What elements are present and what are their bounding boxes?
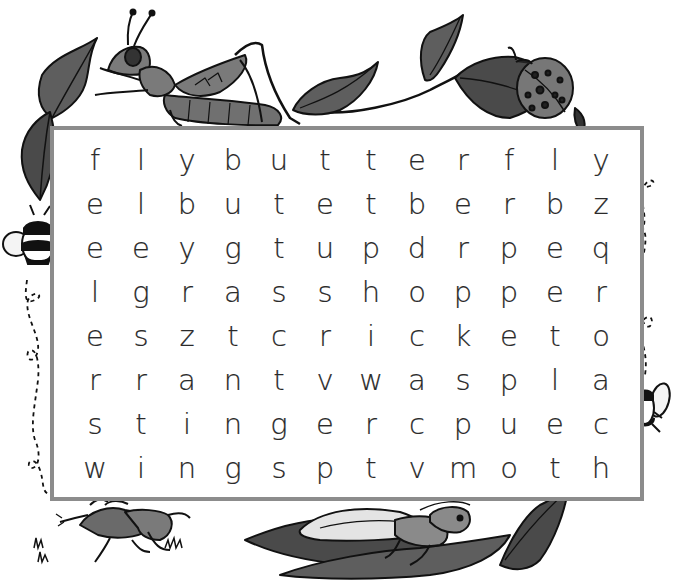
grid-cell[interactable]: v: [394, 446, 440, 490]
grid-cell[interactable]: l: [118, 138, 164, 182]
grid-cell[interactable]: r: [118, 358, 164, 402]
grid-cell[interactable]: l: [118, 182, 164, 226]
grid-cell[interactable]: t: [210, 314, 256, 358]
grid-cell[interactable]: e: [394, 138, 440, 182]
grid-cell[interactable]: z: [578, 182, 624, 226]
grid-cell[interactable]: e: [532, 226, 578, 270]
grid-cell[interactable]: t: [256, 226, 302, 270]
grid-cell[interactable]: p: [348, 226, 394, 270]
grid-cell[interactable]: w: [72, 446, 118, 490]
grid-cell[interactable]: t: [532, 446, 578, 490]
grid-cell[interactable]: b: [532, 182, 578, 226]
grid-cell[interactable]: g: [118, 270, 164, 314]
grid-cell[interactable]: f: [486, 138, 532, 182]
grid-cell[interactable]: q: [578, 226, 624, 270]
grid-cell[interactable]: a: [164, 358, 210, 402]
grid-cell[interactable]: c: [394, 314, 440, 358]
grid-cell[interactable]: c: [394, 402, 440, 446]
grid-cell[interactable]: g: [210, 226, 256, 270]
grid-cell[interactable]: t: [256, 182, 302, 226]
grid-cell[interactable]: p: [302, 446, 348, 490]
grid-cell[interactable]: e: [532, 402, 578, 446]
grid-cell[interactable]: n: [210, 358, 256, 402]
grid-cell[interactable]: e: [118, 226, 164, 270]
grid-cell[interactable]: y: [164, 138, 210, 182]
grid-cell[interactable]: u: [302, 226, 348, 270]
grid-cell[interactable]: a: [394, 358, 440, 402]
cricket-on-leaf-icon: [245, 490, 568, 579]
grid-cell[interactable]: v: [302, 358, 348, 402]
grid-cell[interactable]: r: [348, 402, 394, 446]
grid-cell[interactable]: e: [72, 314, 118, 358]
grid-cell[interactable]: s: [302, 270, 348, 314]
grid-cell[interactable]: y: [164, 226, 210, 270]
grid-cell[interactable]: w: [348, 358, 394, 402]
grid-cell[interactable]: e: [532, 270, 578, 314]
grid-cell[interactable]: o: [394, 270, 440, 314]
grid-cell[interactable]: o: [578, 314, 624, 358]
grid-cell[interactable]: z: [164, 314, 210, 358]
grid-cell[interactable]: d: [394, 226, 440, 270]
grid-cell[interactable]: r: [72, 358, 118, 402]
grid-cell[interactable]: i: [348, 314, 394, 358]
grid-cell[interactable]: f: [72, 138, 118, 182]
grid-cell[interactable]: r: [440, 226, 486, 270]
grid-cell[interactable]: r: [302, 314, 348, 358]
grid-cell[interactable]: k: [440, 314, 486, 358]
grid-cell[interactable]: l: [532, 358, 578, 402]
grid-cell[interactable]: r: [578, 270, 624, 314]
grid-cell[interactable]: r: [440, 138, 486, 182]
grid-cell[interactable]: m: [440, 446, 486, 490]
grid-cell[interactable]: e: [302, 182, 348, 226]
grid-cell[interactable]: b: [210, 138, 256, 182]
grid-cell[interactable]: p: [486, 270, 532, 314]
grid-cell[interactable]: i: [164, 402, 210, 446]
grid-cell[interactable]: n: [164, 446, 210, 490]
grid-cell[interactable]: e: [440, 182, 486, 226]
grid-cell[interactable]: p: [440, 270, 486, 314]
grid-cell[interactable]: g: [210, 446, 256, 490]
grid-cell[interactable]: t: [302, 138, 348, 182]
grid-cell[interactable]: y: [578, 138, 624, 182]
grid-cell[interactable]: b: [164, 182, 210, 226]
grid-cell[interactable]: a: [210, 270, 256, 314]
grid-cell[interactable]: s: [256, 270, 302, 314]
grid-cell[interactable]: e: [302, 402, 348, 446]
grid-cell[interactable]: h: [348, 270, 394, 314]
grid-cell[interactable]: a: [578, 358, 624, 402]
grid-cell[interactable]: b: [394, 182, 440, 226]
grid-cell[interactable]: c: [256, 314, 302, 358]
grid-cell[interactable]: t: [532, 314, 578, 358]
grid-cell[interactable]: s: [118, 314, 164, 358]
grid-cell[interactable]: r: [164, 270, 210, 314]
grid-cell[interactable]: p: [486, 358, 532, 402]
grass-tufts-icon: [34, 538, 182, 562]
grid-cell[interactable]: s: [440, 358, 486, 402]
letter-grid: f l y b u t t e r f l y e l b u t e t b …: [72, 138, 624, 490]
grid-cell[interactable]: h: [578, 446, 624, 490]
grid-cell[interactable]: p: [486, 226, 532, 270]
grid-cell[interactable]: e: [72, 182, 118, 226]
grid-cell[interactable]: u: [210, 182, 256, 226]
grid-cell[interactable]: e: [72, 226, 118, 270]
grid-cell[interactable]: c: [578, 402, 624, 446]
grid-cell[interactable]: t: [348, 182, 394, 226]
grid-cell[interactable]: t: [348, 138, 394, 182]
grid-cell[interactable]: t: [256, 358, 302, 402]
ladybug-icon: [508, 48, 573, 118]
grid-cell[interactable]: u: [486, 402, 532, 446]
grid-cell[interactable]: p: [440, 402, 486, 446]
grid-cell[interactable]: o: [486, 446, 532, 490]
grid-cell[interactable]: n: [210, 402, 256, 446]
grid-cell[interactable]: u: [256, 138, 302, 182]
grid-cell[interactable]: r: [486, 182, 532, 226]
grid-cell[interactable]: g: [256, 402, 302, 446]
grid-cell[interactable]: l: [532, 138, 578, 182]
grid-cell[interactable]: e: [486, 314, 532, 358]
grid-cell[interactable]: s: [72, 402, 118, 446]
grid-cell[interactable]: s: [256, 446, 302, 490]
grid-cell[interactable]: t: [118, 402, 164, 446]
grid-cell[interactable]: l: [72, 270, 118, 314]
grid-cell[interactable]: i: [118, 446, 164, 490]
grid-cell[interactable]: t: [348, 446, 394, 490]
